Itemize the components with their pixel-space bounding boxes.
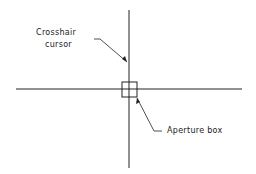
crosshair-diagram bbox=[0, 0, 256, 174]
aperture-label: Aperture box bbox=[167, 126, 223, 136]
crosshair-label-line1: Crosshair bbox=[36, 28, 76, 38]
aperture-leader bbox=[137, 98, 162, 131]
crosshair-leader bbox=[94, 39, 127, 62]
crosshair-label-line2: cursor bbox=[45, 40, 72, 50]
diagram-canvas: Crosshair cursor Aperture box bbox=[0, 0, 256, 174]
crosshair-arrowhead-icon bbox=[122, 56, 127, 62]
